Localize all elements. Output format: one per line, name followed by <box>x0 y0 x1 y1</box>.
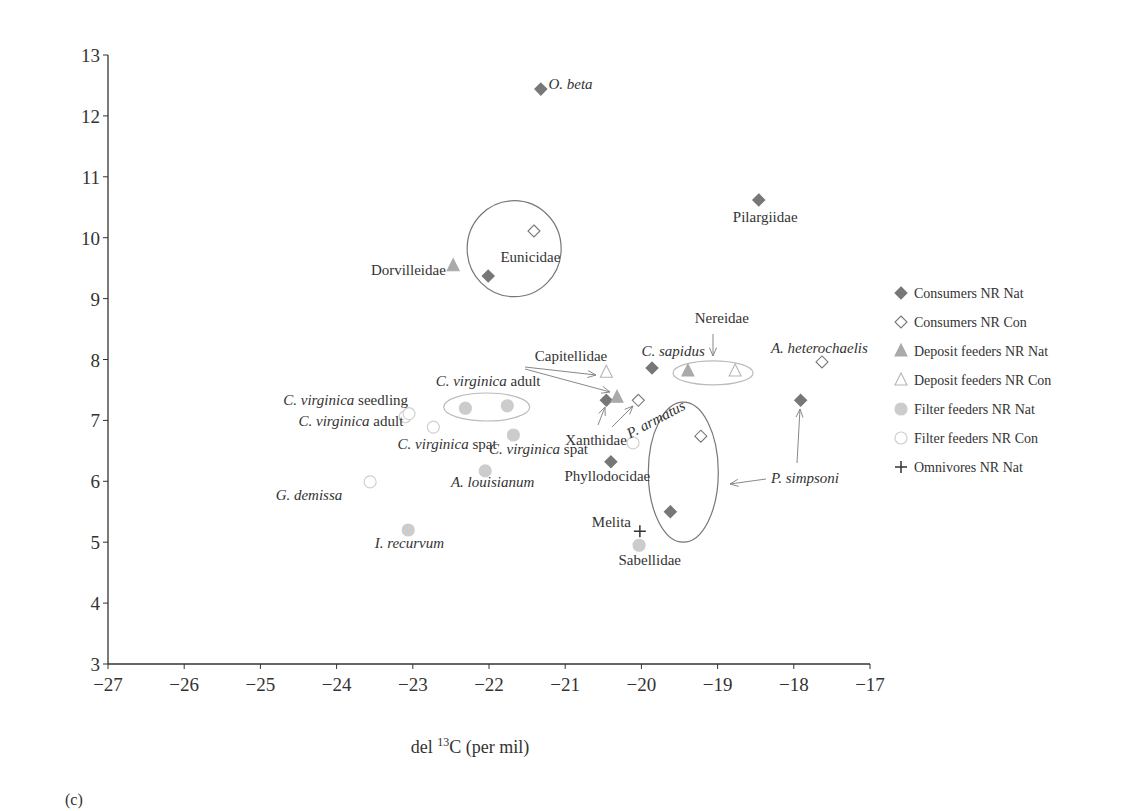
point-filter-feeders-nr-nat <box>501 400 513 412</box>
annotation-label: O. beta <box>548 76 592 92</box>
x-tick-label: −24 <box>322 674 352 695</box>
point-consumers-nr-nat <box>664 506 676 518</box>
legend: Consumers NR NatConsumers NR ConDeposit … <box>895 286 1051 475</box>
x-tick-label: −21 <box>550 674 580 695</box>
point-consumers-nr-nat <box>753 194 765 206</box>
point-consumers-nr-nat <box>482 270 494 282</box>
x-tick-label: −27 <box>93 674 123 695</box>
point-filter-feeders-nr-nat <box>402 524 414 536</box>
point-deposit-feeders-nr-nat <box>611 390 623 402</box>
legend-marker <box>895 316 907 328</box>
arrow-xanthidae-1 <box>598 407 605 425</box>
point-omnivores-nr-nat <box>634 525 646 537</box>
arrow-p-simpsoni-1 <box>730 479 766 484</box>
point-consumers-nr-nat <box>795 394 807 406</box>
point-deposit-feeders-nr-nat <box>682 364 694 376</box>
point-consumers-nr-nat <box>600 394 612 406</box>
legend-marker <box>895 403 907 415</box>
point-consumers-nr-con <box>816 356 828 368</box>
point-filter-feeders-nr-con <box>364 476 376 488</box>
point-filter-feeders-nr-nat <box>459 402 471 414</box>
y-tick-label: 10 <box>81 228 100 249</box>
y-tick-label: 3 <box>91 654 101 675</box>
annotation-label: C. virginica adult <box>436 373 542 389</box>
c-virginica-adult-ellipse <box>444 393 530 421</box>
group-outlines <box>444 201 753 543</box>
panel-label: (c) <box>65 791 83 809</box>
point-consumers-nr-con <box>528 225 540 237</box>
point-filter-feeders-nr-con <box>427 421 439 433</box>
x-tick-label: −26 <box>169 674 199 695</box>
x-tick-label: −19 <box>703 674 733 695</box>
legend-label: Consumers NR Con <box>914 315 1027 330</box>
y-tick-label: 5 <box>91 532 101 553</box>
y-tick-label: 6 <box>91 471 101 492</box>
legend-marker <box>895 461 907 473</box>
y-tick-label: 9 <box>91 289 101 310</box>
point-deposit-feeders-nr-con <box>600 365 612 377</box>
y-tick-label: 11 <box>82 167 100 188</box>
x-tick-label: −25 <box>246 674 276 695</box>
scatter-chart: −27−26−25−24−23−22−21−20−19−18−173456789… <box>0 0 1125 811</box>
annotation-label: Pilargiidae <box>733 209 798 225</box>
legend-label: Deposit feeders NR Con <box>914 373 1051 388</box>
legend-marker <box>895 287 907 299</box>
point-consumers-nr-nat <box>646 362 658 374</box>
annotation-label: A. heterochaelis <box>770 340 868 356</box>
axes: −27−26−25−24−23−22−21−20−19−18−173456789… <box>81 45 885 695</box>
y-tick-label: 8 <box>91 350 101 371</box>
legend-label: Deposit feeders NR Nat <box>914 344 1048 359</box>
legend-marker <box>895 432 907 444</box>
annotation-label: C. virginica seedling <box>283 392 408 408</box>
point-consumers-nr-nat <box>535 83 547 95</box>
annotation-label: G. demissa <box>276 487 343 503</box>
y-tick-label: 7 <box>91 410 101 431</box>
legend-label: Filter feeders NR Nat <box>914 402 1035 417</box>
point-consumers-nr-con <box>632 394 644 406</box>
annotation-label: Sabellidae <box>619 552 682 568</box>
point-consumers-nr-con <box>695 430 707 442</box>
annotation-label: Eunicidae <box>500 249 560 265</box>
annotation-label: C. virginica spat <box>489 441 589 457</box>
x-tick-label: −20 <box>627 674 657 695</box>
y-tick-label: 4 <box>91 593 101 614</box>
legend-marker <box>895 373 907 385</box>
annotation-label: C. sapidus <box>641 343 705 359</box>
point-deposit-feeders-nr-con <box>729 364 741 376</box>
annotation-label: Nereidae <box>695 310 749 326</box>
x-axis-title: del 13C (per mil) <box>411 735 529 758</box>
annotation-label-rotated: P. armatus <box>623 397 688 442</box>
annotation-label: C. virginica adult <box>299 413 405 429</box>
annotation-labels: O. betaPilargiidaeEunicidaeDorvilleidaeN… <box>276 76 868 568</box>
point-consumers-nr-nat <box>605 456 617 468</box>
point-deposit-feeders-nr-nat <box>447 259 459 271</box>
x-tick-label: −22 <box>474 674 504 695</box>
x-tick-label: −17 <box>855 674 885 695</box>
annotation-label: C. virginica spat <box>398 436 498 452</box>
x-tick-label: −23 <box>398 674 428 695</box>
x-tick-label: −18 <box>779 674 809 695</box>
point-filter-feeders-nr-con <box>403 408 415 420</box>
legend-marker <box>895 344 907 356</box>
annotation-label: Capitellidae <box>535 348 608 364</box>
legend-label: Omnivores NR Nat <box>914 460 1023 475</box>
point-filter-feeders-nr-nat <box>507 429 519 441</box>
y-tick-label: 13 <box>81 45 100 66</box>
point-filter-feeders-nr-nat <box>633 539 645 551</box>
annotation-label: Dorvilleidae <box>371 262 446 278</box>
annotation-label: A. louisianum <box>450 474 535 490</box>
annotation-label: Phyllodocidae <box>564 468 650 484</box>
legend-label: Filter feeders NR Con <box>914 431 1038 446</box>
y-tick-label: 12 <box>81 106 100 127</box>
annotation-label: P. simpsoni <box>770 470 839 486</box>
annotation-label: Melita <box>592 514 631 530</box>
annotation-label: I. recurvum <box>374 535 445 551</box>
arrow-p-simpsoni-2 <box>797 409 800 463</box>
legend-label: Consumers NR Nat <box>914 286 1024 301</box>
